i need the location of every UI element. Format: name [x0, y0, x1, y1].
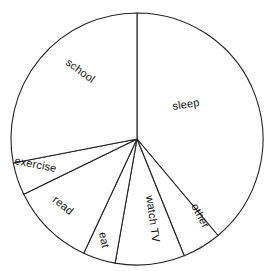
pie-chart: sleepotherwatch TVeatreadexerciseschool [0, 0, 265, 271]
pie-slice-school[interactable] [11, 13, 137, 163]
pie-slices-group [11, 13, 263, 265]
pie-chart-svg: sleepotherwatch TVeatreadexerciseschool [0, 0, 265, 271]
